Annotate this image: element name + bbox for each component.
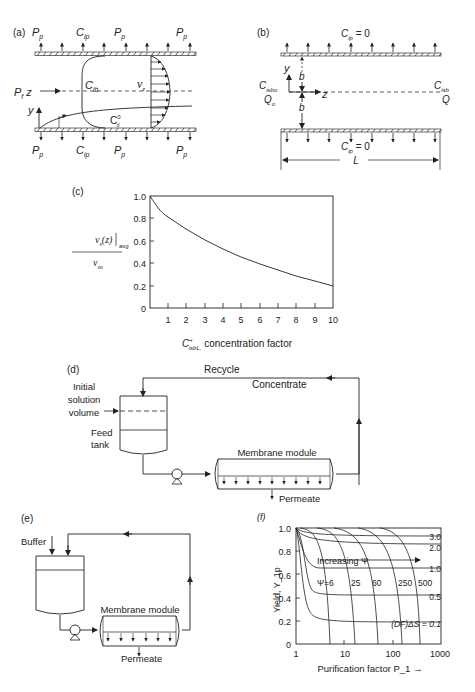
svg-text:0.2: 0.2	[278, 617, 291, 627]
panel-c: (c) 1.00.8 0.60.4 0.20 12 34 56 78 910 ν…	[72, 186, 338, 351]
velocity-label: νz	[137, 77, 145, 93]
bottom-membrane	[35, 128, 196, 132]
panel-c-label: (c)	[72, 186, 84, 197]
svg-text:5: 5	[238, 315, 243, 325]
svg-text:10: 10	[328, 315, 338, 325]
svg-text:Initial: Initial	[73, 381, 95, 392]
svg-text:volume: volume	[69, 407, 100, 418]
boundary-conc-label: C0il	[110, 114, 121, 128]
panel-d: (d) Recycle Concentrate Initial solution…	[67, 364, 359, 504]
bottom-conc-label: Cip = 0	[341, 141, 370, 154]
svg-text:Cip: Cip	[76, 26, 90, 41]
svg-text:0: 0	[141, 304, 146, 314]
permeate-label-e: Permeate	[121, 653, 162, 664]
panel-a-top-labels: Pp Cip Pp Pp	[32, 26, 187, 41]
svg-text:500: 500	[418, 578, 432, 588]
length-label: L	[353, 155, 359, 166]
y-axis-label-b: y	[283, 62, 291, 74]
svg-text:0.6: 0.6	[133, 237, 146, 247]
svg-text:1.0: 1.0	[278, 524, 291, 534]
outlet-conc-b: Cisb	[434, 80, 450, 93]
svg-text:25: 25	[351, 578, 361, 588]
svg-text:Feed: Feed	[91, 427, 113, 438]
svg-text:0.4: 0.4	[133, 259, 146, 269]
half-gap-label-top: b	[299, 71, 305, 82]
recycle-label: Recycle	[204, 364, 240, 375]
panel-b-label: (b)	[257, 27, 269, 38]
svg-text:0.8: 0.8	[278, 547, 291, 557]
permeate-label-d: Permeate	[279, 493, 320, 504]
membrane-module	[215, 459, 333, 489]
svg-text:6: 6	[257, 315, 262, 325]
y-axis-label: y	[27, 104, 35, 116]
inlet-label: Pf z	[14, 86, 32, 100]
svg-text:250: 250	[398, 578, 412, 588]
svg-text:tank: tank	[91, 439, 109, 450]
svg-text:8: 8	[293, 315, 298, 325]
svg-text:Cip: Cip	[76, 144, 90, 159]
xlabel-c: C+isbL, concentration factor	[182, 337, 293, 351]
xlabel-f: Purification factor P_1 →	[317, 663, 422, 674]
svg-text:60: 60	[372, 578, 382, 588]
svg-text:3: 3	[202, 315, 207, 325]
plot-frame-c	[150, 196, 333, 308]
svg-text:0.8: 0.8	[133, 214, 146, 224]
svg-text:Pp: Pp	[32, 144, 43, 159]
ylabel-numerator: νs(z)	[95, 234, 113, 247]
panel-f-label: (f)	[257, 512, 266, 522]
z-axis-label: z	[321, 88, 328, 100]
panel-a-label: (a)	[13, 27, 25, 38]
top-conc-label: Cip = 0	[341, 28, 370, 41]
panel-a: (a) Pp Cip Pp Pp Pp Cip Pp Pp	[13, 26, 196, 159]
svg-text:Pp: Pp	[176, 26, 187, 41]
svg-text:1000: 1000	[430, 649, 450, 659]
svg-text:1: 1	[293, 649, 298, 659]
svg-text:2.0: 2.0	[429, 543, 441, 553]
flux-curve	[150, 196, 333, 286]
x-ticks-c: 12 34 56 78 910	[165, 315, 338, 325]
svg-text:1.0: 1.0	[133, 192, 146, 202]
membrane-module-e	[100, 616, 179, 646]
ylabel-denominator: νso	[93, 257, 103, 270]
panel-b: (b) Cip = 0 Cip = 0 z y b b Cisbo	[257, 27, 450, 170]
svg-text:3.0: 3.0	[429, 532, 441, 542]
permeate-arrows-up	[41, 43, 190, 51]
svg-text:0.2: 0.2	[133, 282, 146, 292]
permeate-arrows-up-b	[287, 43, 435, 52]
svg-text:1.0: 1.0	[429, 564, 441, 574]
svg-text:7: 7	[275, 315, 280, 325]
outlet-flow-b: Q	[442, 94, 450, 105]
panel-e: (e) Buffer Membrane module Permeate	[21, 513, 190, 664]
half-gap-label-bottom: b	[299, 102, 305, 113]
svg-text:(DF)ΔS = 0.1: (DF)ΔS = 0.1	[391, 619, 441, 629]
feed-tank	[120, 396, 167, 454]
top-membrane	[35, 52, 196, 56]
ylabel-f: Yield, Y_1p	[272, 567, 282, 613]
panel-d-label: (d)	[67, 364, 79, 375]
module-label-e: Membrane module	[100, 604, 179, 615]
svg-text:Ψ=6: Ψ=6	[317, 578, 334, 588]
module-label-d: Membrane module	[237, 447, 316, 458]
svg-text:100: 100	[385, 649, 400, 659]
svg-text:10: 10	[340, 649, 350, 659]
y-ticks-c: 1.00.8 0.60.4 0.20	[133, 192, 146, 314]
svg-text:solution: solution	[68, 394, 101, 405]
bottom-membrane-b	[281, 129, 441, 132]
panel-a-bottom-labels: Pp Cip Pp Pp	[32, 144, 187, 159]
svg-text:0.5: 0.5	[429, 592, 441, 602]
svg-text:9: 9	[312, 315, 317, 325]
svg-text:avg: avg	[119, 243, 129, 249]
buffer-label: Buffer	[21, 536, 46, 547]
inlet-flow-b: Qo	[264, 94, 276, 107]
concentrate-label: Concentrate	[252, 379, 307, 390]
x-ticks-f: 110 1001000	[293, 649, 450, 659]
top-membrane-b	[281, 53, 441, 56]
svg-text:Pp: Pp	[114, 26, 125, 41]
svg-text:2: 2	[183, 315, 188, 325]
bulk-conc-label: Cib	[85, 79, 99, 93]
inlet-conc-b: Cisbo	[259, 80, 278, 93]
svg-text:Pp: Pp	[176, 144, 187, 159]
panel-f: (f) 1.00.8 0.60.4 0.20 110 1001000	[257, 512, 450, 674]
svg-text:0: 0	[286, 640, 291, 650]
permeate-arrows-down	[41, 132, 190, 140]
